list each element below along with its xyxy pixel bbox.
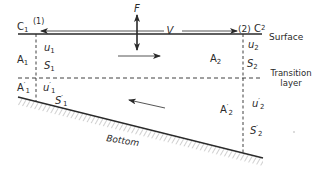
velocity-u1: u1 — [44, 42, 55, 55]
velocity-u1-prime: u′1 — [43, 81, 55, 95]
stress-s2: S2 — [247, 58, 258, 71]
section-2-label: (2) — [238, 24, 251, 34]
area-a1-prime: A′1 — [17, 81, 30, 95]
lower-flow-arrow — [129, 100, 165, 108]
stress-s1: S1 — [44, 60, 55, 73]
velocity-u2: u2 — [248, 39, 259, 52]
flow-diagram: V F C1 (1) (2) C2 Surface Transition lay… — [0, 0, 319, 176]
stress-s2-prime: S′2 — [250, 124, 262, 138]
area-a2-prime: A′2 — [220, 103, 233, 117]
section-1-label: (1) — [33, 17, 44, 26]
c2-label: C2 — [254, 23, 265, 34]
force-label: F — [134, 3, 140, 14]
speck — [293, 131, 295, 133]
transition-label: Transition — [269, 68, 311, 78]
stress-s1-prime: S′1 — [55, 94, 67, 108]
transition-label-2: layer — [280, 78, 302, 88]
velocity-label: V — [167, 25, 175, 36]
area-a1: A1 — [17, 54, 28, 67]
area-a2: A2 — [210, 53, 221, 66]
bottom-label: Bottom — [106, 133, 140, 148]
velocity-u2-prime: u′2 — [252, 97, 264, 111]
surface-label: Surface — [269, 32, 304, 42]
c1-label: C1 — [17, 21, 28, 34]
